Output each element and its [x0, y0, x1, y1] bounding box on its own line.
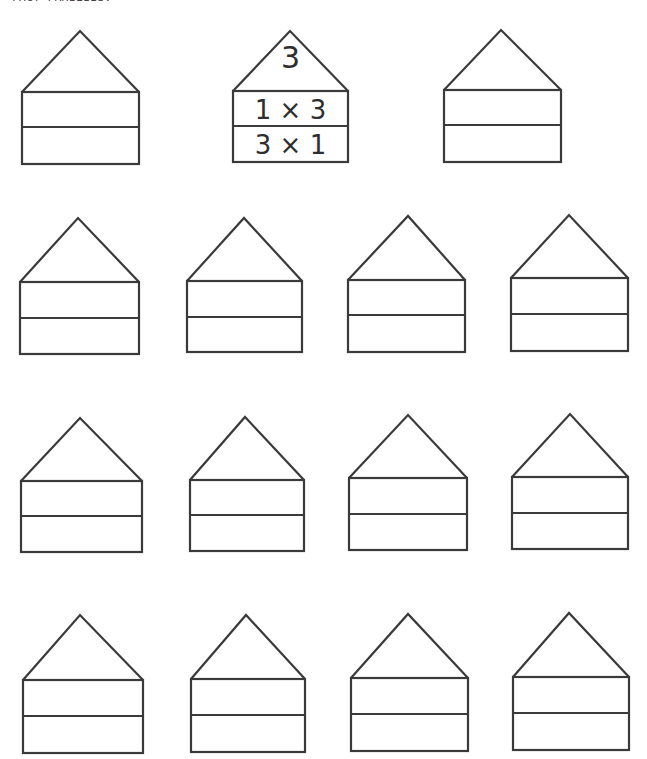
fact-house: [191, 615, 305, 752]
row1-answer-field[interactable]: [514, 479, 626, 511]
fact-house: [22, 31, 139, 164]
row2-answer-field[interactable]: [22, 320, 137, 352]
roof-answer-field[interactable]: [471, 55, 531, 87]
row2-answer-field[interactable]: [23, 518, 140, 550]
row1-answer-field[interactable]: [23, 483, 140, 514]
row2-answer-field[interactable]: [25, 718, 141, 751]
fact-house: [348, 216, 465, 352]
row1-answer-field[interactable]: [24, 94, 137, 125]
roof-answer-field[interactable]: [378, 241, 438, 277]
row2-answer-text: 3 × 1: [255, 130, 326, 160]
fact-house: [351, 614, 468, 751]
row2-answer-field[interactable]: [513, 316, 626, 349]
roof-answer-field[interactable]: [539, 638, 599, 674]
row2-answer-field[interactable]: [189, 319, 300, 350]
roof-answer-text: 3: [281, 40, 300, 75]
fact-family-worksheet: 31 × 33 × 1: [0, 0, 647, 759]
roof-answer-field[interactable]: [215, 442, 275, 477]
roof-answer-field[interactable]: [214, 243, 274, 278]
row1-answer-field[interactable]: [350, 282, 463, 313]
row1-answer-field[interactable]: [513, 280, 626, 312]
roof-answer-field[interactable]: [50, 56, 110, 89]
fact-house: [20, 218, 139, 354]
row1-answer-text: 1 × 3: [255, 95, 326, 125]
roof-answer-field[interactable]: [50, 443, 110, 478]
row2-answer-field[interactable]: [515, 715, 627, 748]
example-fact-house: 31 × 33 × 1: [233, 31, 348, 162]
row1-answer-field[interactable]: [25, 682, 141, 714]
row2-answer-field[interactable]: [193, 717, 303, 750]
roof-answer-field[interactable]: [540, 439, 600, 474]
row2-answer-field[interactable]: [446, 127, 559, 160]
fact-house: [190, 417, 304, 551]
fact-house: [444, 30, 561, 162]
row2-answer-field[interactable]: [192, 517, 302, 549]
row1-answer-field[interactable]: [22, 284, 137, 316]
roof-answer-field[interactable]: [216, 640, 276, 676]
row1-answer-field[interactable]: [515, 679, 627, 711]
roof-answer-field[interactable]: [48, 243, 108, 279]
fact-house: [21, 418, 142, 552]
fact-house: [512, 414, 628, 549]
row2-answer-field[interactable]: [24, 129, 137, 162]
row2-answer-field[interactable]: [351, 516, 465, 548]
row2-answer-field[interactable]: [350, 317, 463, 350]
row2-answer-field[interactable]: [514, 515, 626, 547]
roof-answer-field[interactable]: [539, 240, 599, 275]
roof-answer-field[interactable]: [378, 639, 438, 675]
fact-house: [511, 215, 628, 351]
roof-answer-field[interactable]: [378, 440, 438, 475]
row1-answer-field[interactable]: [192, 482, 302, 513]
row1-answer-field[interactable]: [193, 681, 303, 713]
row1-answer-field[interactable]: [189, 283, 300, 315]
fact-house: [513, 613, 629, 750]
row1-answer-field[interactable]: [446, 92, 559, 123]
row1-answer-field[interactable]: [351, 480, 465, 512]
fact-house: [187, 218, 302, 352]
fact-house: [23, 615, 143, 753]
row1-answer-field[interactable]: [353, 680, 466, 712]
row2-answer-field[interactable]: [353, 716, 466, 749]
roof-answer-field[interactable]: [50, 640, 110, 677]
fact-house: [349, 415, 467, 550]
